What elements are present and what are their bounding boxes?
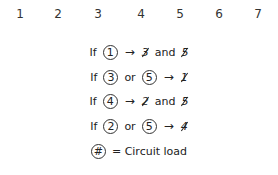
struck-number: 5 — [181, 95, 188, 108]
struck-number: 3 — [142, 46, 149, 59]
joiner: and — [155, 46, 176, 59]
if-label: If — [90, 120, 97, 133]
circuit-load-circle: 1 — [103, 45, 118, 60]
column-number: 3 — [91, 7, 105, 21]
column-number: 2 — [51, 7, 65, 21]
legend: # = Circuit load — [0, 142, 278, 160]
arrow-icon: → — [125, 45, 135, 59]
arrow-icon: → — [164, 119, 174, 133]
struck-number: 1 — [181, 71, 188, 84]
rule-2: If 3 or 5 → 1 — [0, 68, 278, 86]
legend-text: = Circuit load — [112, 145, 187, 158]
arrow-icon: → — [164, 70, 174, 84]
joiner: and — [155, 95, 176, 108]
circuit-load-circle: 5 — [142, 70, 157, 85]
rule-1: If 1 → 3 and 5 — [0, 43, 278, 61]
if-label: If — [90, 46, 97, 59]
circuit-load-circle: 5 — [142, 119, 157, 134]
arrow-icon: → — [125, 94, 135, 108]
column-number: 1 — [13, 7, 27, 21]
struck-number: 5 — [181, 46, 188, 59]
rule-4: If 2 or 5 → 4 — [0, 117, 278, 135]
column-number: 6 — [212, 7, 226, 21]
circuit-load-circle: 2 — [103, 119, 118, 134]
column-number: 7 — [251, 7, 265, 21]
circuit-load-circle: 4 — [103, 94, 118, 109]
joiner: or — [124, 120, 135, 133]
if-label: If — [90, 71, 97, 84]
column-number: 5 — [173, 7, 187, 21]
joiner: or — [124, 71, 135, 84]
struck-number: 4 — [181, 120, 188, 133]
if-label: If — [90, 95, 97, 108]
circuit-load-circle: # — [91, 144, 106, 159]
column-number: 4 — [134, 7, 148, 21]
struck-number: 2 — [142, 95, 149, 108]
circuit-load-circle: 3 — [103, 70, 118, 85]
rule-3: If 4 → 2 and 5 — [0, 92, 278, 110]
